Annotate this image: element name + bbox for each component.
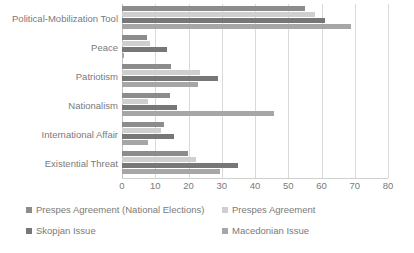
legend-label: Prespes Agreement (National Elections) xyxy=(36,204,204,216)
bar-group xyxy=(122,149,388,178)
x-tick-label-80: 80 xyxy=(373,180,403,192)
bar-group xyxy=(122,62,388,91)
bar-2-2 xyxy=(122,76,218,81)
legend-swatch-icon xyxy=(26,228,32,234)
bar-4-2 xyxy=(122,134,174,139)
bar-chart: Political-Mobilization ToolPeacePatrioti… xyxy=(0,0,414,253)
bar-group xyxy=(122,120,388,149)
bar-4-0 xyxy=(122,122,164,127)
bar-3-2 xyxy=(122,105,177,110)
bar-1-0 xyxy=(122,35,147,40)
bar-3-1 xyxy=(122,99,148,104)
bar-group xyxy=(122,33,388,62)
x-tick-label-40: 40 xyxy=(240,180,270,192)
legend-item-2[interactable]: Skopjan Issue xyxy=(26,225,96,237)
x-tick-label-60: 60 xyxy=(307,180,337,192)
category-label-4: International Affair xyxy=(0,129,118,140)
bar-4-1 xyxy=(122,128,161,133)
category-label-3: Nationalism xyxy=(0,100,118,111)
x-axis-line xyxy=(122,178,388,179)
category-axis-labels: Political-Mobilization ToolPeacePatrioti… xyxy=(0,4,118,178)
bar-group xyxy=(122,4,388,33)
gridline-80 xyxy=(388,4,389,178)
bar-1-3 xyxy=(122,53,124,58)
bar-0-0 xyxy=(122,6,305,11)
x-tick-label-20: 20 xyxy=(174,180,204,192)
legend-label: Prespes Agreement xyxy=(232,204,315,216)
x-tick-label-50: 50 xyxy=(273,180,303,192)
category-label-2: Patriotism xyxy=(0,71,118,82)
bar-2-1 xyxy=(122,70,200,75)
bar-4-3 xyxy=(122,140,148,145)
legend-item-3[interactable]: Macedonian Issue xyxy=(222,225,309,237)
bar-5-3 xyxy=(122,169,220,174)
legend-swatch-icon xyxy=(222,207,228,213)
bar-0-3 xyxy=(122,24,351,29)
plot-area xyxy=(122,4,388,178)
bar-3-3 xyxy=(122,111,274,116)
chart-legend: Prespes Agreement (National Elections)Pr… xyxy=(26,204,396,248)
bar-1-1 xyxy=(122,41,150,46)
legend-item-0[interactable]: Prespes Agreement (National Elections) xyxy=(26,204,204,216)
legend-label: Macedonian Issue xyxy=(232,225,309,237)
bar-0-2 xyxy=(122,18,325,23)
category-label-5: Existential Threat xyxy=(0,158,118,169)
bar-0-1 xyxy=(122,12,315,17)
bar-2-0 xyxy=(122,64,171,69)
x-tick-label-0: 0 xyxy=(107,180,137,192)
bar-5-2 xyxy=(122,163,238,168)
legend-item-1[interactable]: Prespes Agreement xyxy=(222,204,315,216)
bar-group xyxy=(122,91,388,120)
bar-3-0 xyxy=(122,93,170,98)
legend-swatch-icon xyxy=(26,207,32,213)
bar-1-2 xyxy=(122,47,167,52)
x-tick-label-70: 70 xyxy=(340,180,370,192)
bar-5-0 xyxy=(122,151,188,156)
x-axis-tick-labels: 01020304050607080 xyxy=(0,180,414,194)
category-label-1: Peace xyxy=(0,42,118,53)
bar-2-3 xyxy=(122,82,198,87)
legend-swatch-icon xyxy=(222,228,228,234)
x-tick-label-10: 10 xyxy=(140,180,170,192)
bar-5-1 xyxy=(122,157,196,162)
legend-label: Skopjan Issue xyxy=(36,225,96,237)
category-label-0: Political-Mobilization Tool xyxy=(0,13,118,24)
x-tick-label-30: 30 xyxy=(207,180,237,192)
